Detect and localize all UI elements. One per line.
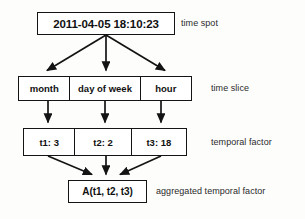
arrow-t3-to-aggregate — [120, 156, 161, 175]
time-spot-box[interactable]: 2011-04-05 18:10:23 — [37, 12, 175, 35]
arrow-t1-to-aggregate — [48, 156, 92, 175]
diagram-canvas: 2011-04-05 18:10:23 time spot month day … — [0, 0, 305, 219]
aggregated-temporal-factor-box[interactable]: A(t1, t2, t3) — [68, 180, 147, 203]
temporal-factor-row: t1: 3 t2: 2 t3: 18 — [23, 128, 187, 156]
arrow-timespot-to-hour — [106, 35, 165, 71]
label-aggregated-temporal-factor: aggregated temporal factor — [156, 186, 265, 196]
time-slice-cell-day-of-week[interactable]: day of week — [70, 77, 140, 100]
time-slice-cell-hour[interactable]: hour — [141, 77, 191, 100]
arrow-timespot-to-month — [47, 35, 106, 71]
temporal-factor-cell-t2[interactable]: t2: 2 — [75, 129, 131, 155]
label-temporal-factor: temporal factor — [211, 137, 272, 147]
temporal-factor-cell-t3[interactable]: t3: 18 — [132, 129, 186, 155]
label-time-slice: time slice — [211, 83, 249, 93]
temporal-factor-cell-t1[interactable]: t1: 3 — [24, 129, 75, 155]
time-slice-cell-month[interactable]: month — [19, 77, 70, 100]
label-time-spot: time spot — [181, 18, 218, 28]
time-slice-row: month day of week hour — [18, 76, 192, 101]
